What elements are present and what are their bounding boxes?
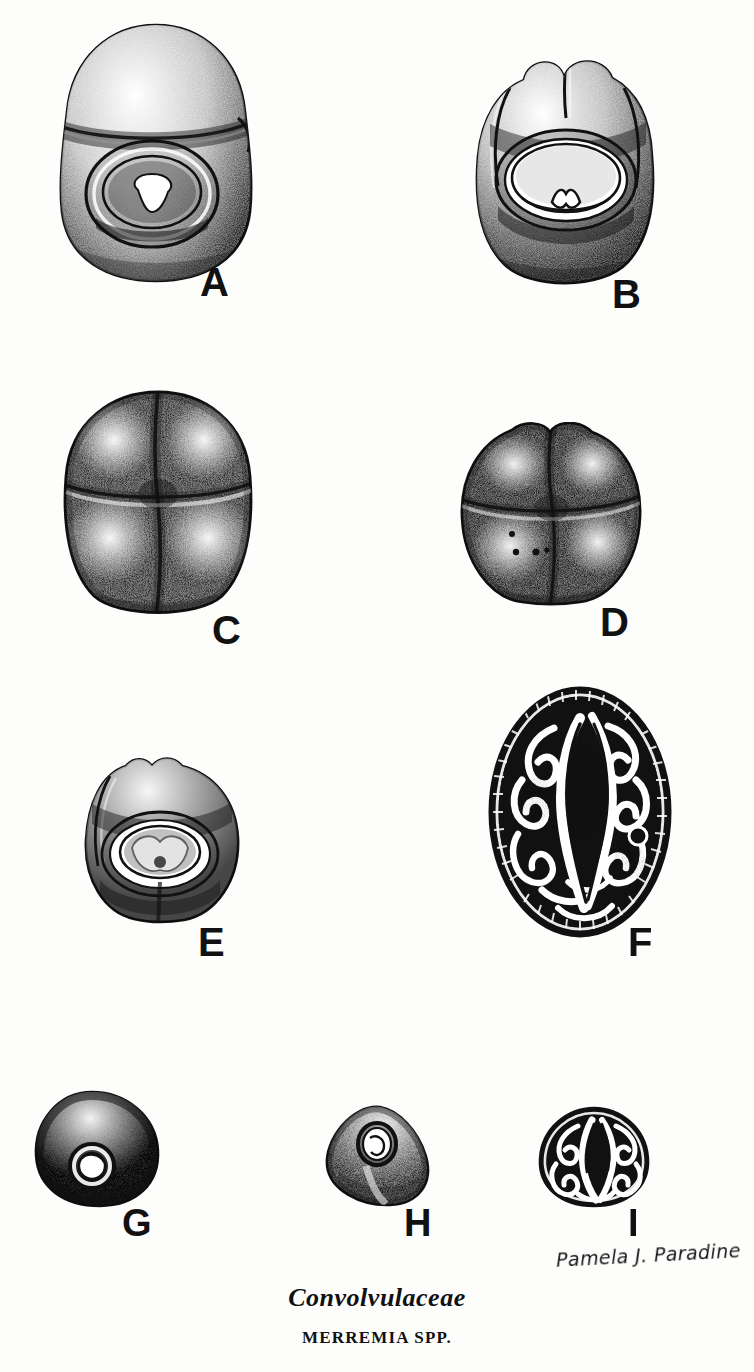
figure-a-seed-hilar-view	[52, 22, 260, 284]
illustration-plate: A	[0, 0, 754, 1372]
figure-label-d: D	[600, 602, 629, 642]
figure-label-c: C	[212, 610, 241, 650]
figure-h-seed-pale-triangular	[322, 1104, 438, 1208]
caption-family-name: Convolvulaceae	[0, 1283, 754, 1313]
figure-label-g: G	[122, 1204, 152, 1242]
figure-label-h: H	[404, 1204, 431, 1242]
figure-label-f: F	[628, 922, 652, 962]
artist-signature: Pamela J. Paradine	[556, 1239, 742, 1271]
figure-b-seed-hilar-view-bilobed	[466, 52, 666, 292]
figure-e-seed-hilar-view-small	[74, 752, 250, 928]
figure-c-seed-dorsal-four-lobed	[58, 388, 258, 620]
figure-label-b: B	[612, 274, 641, 314]
figure-g-seed-dark-triangular	[30, 1088, 164, 1210]
caption-genus-name: MERREMIA SPP.	[0, 1328, 754, 1348]
figure-d-seed-dorsal-four-lobed-small	[452, 422, 650, 608]
figure-label-e: E	[198, 922, 225, 962]
figure-label-a: A	[200, 262, 229, 302]
figure-label-i: I	[628, 1204, 639, 1242]
figure-f-seed-cross-section	[484, 684, 676, 940]
figure-i-seed-cross-section-small	[534, 1106, 654, 1208]
